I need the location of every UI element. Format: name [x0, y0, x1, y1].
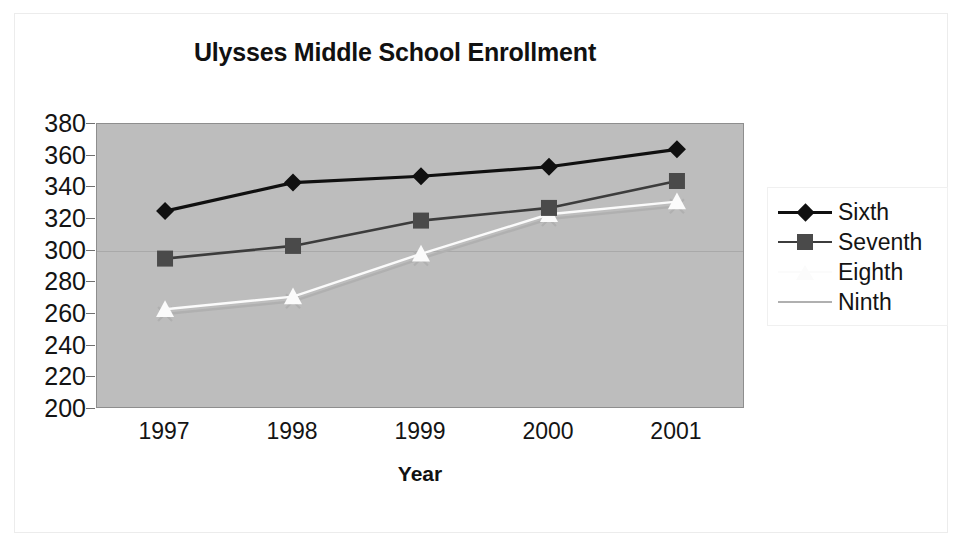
y-axis-tick-label: 220 [2, 364, 86, 389]
y-axis-tick-label: 360 [2, 142, 86, 167]
x-axis-tick-label: 1997 [104, 418, 224, 445]
y-axis-tick-mark [86, 345, 95, 346]
legend-item-ninth[interactable]: Ninth [776, 289, 946, 315]
legend-marker-x-icon [776, 289, 834, 315]
legend-label: Seventh [834, 231, 922, 254]
legend-item-seventh[interactable]: Seventh [776, 229, 946, 255]
y-axis-tick-mark [86, 408, 95, 409]
y-axis-labels: 380360340320300280260240220200 [0, 123, 86, 408]
legend-item-sixth[interactable]: Sixth [776, 199, 946, 225]
data-point-sixth [284, 174, 302, 192]
x-axis-tick-label: 2001 [616, 418, 736, 445]
data-point-seventh [669, 173, 685, 189]
data-point-seventh [541, 200, 557, 216]
data-point-sixth [668, 140, 686, 158]
y-axis-tick-label: 200 [2, 396, 86, 421]
y-axis-tick-label: 300 [2, 237, 86, 262]
legend-symbol [796, 203, 814, 221]
x-axis-title: Year [96, 462, 744, 486]
data-point-sixth [156, 202, 174, 220]
legend-label: Sixth [834, 201, 889, 224]
x-axis-tick-label: 2000 [488, 418, 608, 445]
y-axis-tick-label: 380 [2, 111, 86, 136]
legend-marker-diamond-icon [776, 199, 834, 225]
y-axis-tick-mark [86, 281, 95, 282]
chart-legend: SixthSeventhEighthNinth [767, 187, 948, 326]
plot-inner [97, 124, 743, 407]
y-axis-tick-mark [86, 155, 95, 156]
x-axis-tick-label: 1998 [232, 418, 352, 445]
data-point-sixth [540, 158, 558, 176]
chart-title: Ulysses Middle School Enrollment [0, 38, 790, 67]
data-point-seventh [413, 213, 429, 229]
x-axis-tick-label: 1999 [360, 418, 480, 445]
legend-label: Eighth [834, 261, 903, 284]
y-axis-tick-mark [86, 376, 95, 377]
legend-symbol [797, 234, 813, 250]
y-axis-tick-label: 240 [2, 332, 86, 357]
y-axis-tick-label: 260 [2, 301, 86, 326]
x-axis-labels: 19971998199920002001 [96, 418, 744, 452]
legend-item-eighth[interactable]: Eighth [776, 259, 946, 285]
data-point-seventh [285, 238, 301, 254]
y-axis-tick-mark [86, 218, 95, 219]
y-axis-tick-mark [86, 250, 95, 251]
y-axis-tick-label: 280 [2, 269, 86, 294]
data-point-seventh [157, 251, 173, 267]
data-point-sixth [412, 167, 430, 185]
y-axis-tick-mark [86, 186, 95, 187]
legend-symbol [796, 265, 814, 280]
y-axis-tick-label: 320 [2, 206, 86, 231]
y-axis-tick-mark [86, 313, 95, 314]
series-canvas [97, 124, 745, 409]
plot-area [96, 123, 744, 408]
legend-marker-triangle-icon [776, 259, 834, 285]
y-axis-tick-mark [86, 123, 95, 124]
y-axis-tick-label: 340 [2, 174, 86, 199]
chart-figure: Ulysses Middle School Enrollment 3803603… [0, 0, 964, 545]
legend-label: Ninth [834, 291, 892, 314]
legend-marker-square-icon [776, 229, 834, 255]
